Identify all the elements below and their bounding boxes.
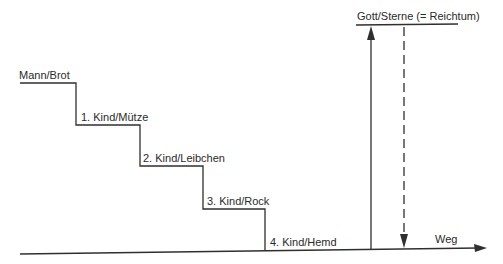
downward-arrowhead-icon: [400, 234, 408, 248]
upward-arrowhead-icon: [367, 26, 375, 40]
staircase-line: [20, 83, 265, 251]
axis-label-weg: Weg: [435, 233, 457, 245]
step-label-kind-4: 4. Kind/Hemd: [270, 236, 337, 248]
weg-axis-line: [20, 248, 478, 254]
step-label-kind-2: 2. Kind/Leibchen: [143, 152, 225, 164]
staircase-diagram: Mann/Brot 1. Kind/Mütze 2. Kind/Leibchen…: [0, 0, 503, 264]
weg-arrowhead-icon: [474, 244, 487, 252]
top-level-line: [356, 24, 458, 25]
step-label-kind-1: 1. Kind/Mütze: [81, 111, 148, 123]
top-label-gott-sterne: Gott/Sterne (= Reichtum): [357, 10, 480, 22]
step-label-mann: Mann/Brot: [19, 69, 70, 81]
step-label-kind-3: 3. Kind/Rock: [207, 195, 270, 207]
